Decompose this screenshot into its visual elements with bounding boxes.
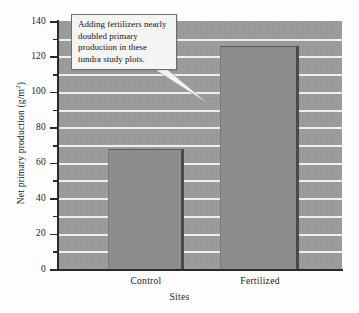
gridline-110 [58,74,342,76]
y-tick-80 [50,127,58,129]
y-tick-minor-70 [53,145,58,147]
gridline-80 [58,127,342,129]
y-tick-label-140: 140 [6,16,46,26]
gridline-40 [58,198,342,200]
bar-fertilized [220,46,299,269]
gridline-50 [58,180,342,182]
gridline-90 [58,110,342,112]
y-tick-0 [50,269,58,271]
y-tick-minor-110 [53,74,58,76]
y-tick-minor-130 [53,39,58,41]
y-tick-label-0: 0 [6,264,46,274]
bar-chart-figure: 140 120 100 80 60 40 20 0 Control Fertil… [0,0,359,313]
x-axis-title: Sites [0,292,359,302]
y-tick-minor-30 [53,216,58,218]
y-axis-title-close: ) [16,82,26,85]
y-tick-minor-10 [53,251,58,253]
y-tick-100 [50,92,58,94]
callout-annotation: Adding fertilizers nearly doubled primar… [71,14,177,70]
gridline-10 [58,251,342,253]
x-tick-label-fertilized: Fertilized [219,276,301,286]
y-tick-minor-90 [53,110,58,112]
bar-control [108,149,184,269]
gridline-70 [58,145,342,147]
y-tick-minor-50 [53,180,58,182]
gridline-20 [58,234,342,236]
y-axis-title-superscript: 2 [14,85,21,88]
y-axis-title-main: Net primary production (g/m [16,89,26,204]
gridline-100 [58,92,342,94]
y-tick-40 [50,198,58,200]
x-tick-label-control: Control [106,276,186,286]
gridline-60 [58,163,342,165]
x-axis-line [57,269,343,271]
y-tick-140 [50,21,58,23]
y-tick-60 [50,163,58,165]
y-axis-title: Net primary production (g/m2) [14,48,26,238]
y-tick-20 [50,234,58,236]
gridline-30 [58,216,342,218]
y-tick-120 [50,56,58,58]
